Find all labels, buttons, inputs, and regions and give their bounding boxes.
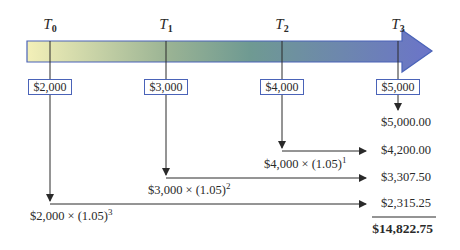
formula-t1: $3,000 × (1.05)2 (148, 181, 230, 198)
future-value-t1: $3,307.50 (351, 170, 431, 185)
cash-flow-box-t3: $5,000 (376, 79, 420, 95)
timeline-arrow (27, 30, 432, 72)
cash-flow-box-t1: $3,000 (144, 79, 188, 95)
time-label-t2: T2 (275, 16, 288, 34)
formula-t0: $2,000 × (1.05)3 (30, 207, 112, 224)
future-value-t3: $5,000.00 (351, 115, 431, 130)
time-label-t0: T0 (43, 16, 56, 34)
cash-flow-box-t2: $4,000 (260, 79, 304, 95)
time-label-t1: T1 (159, 16, 172, 34)
cash-flow-box-t0: $2,000 (28, 79, 72, 95)
formula-t2: $4,000 × (1.05)1 (264, 155, 346, 172)
time-label-t3: T3 (391, 16, 404, 34)
total-future-value: $14,822.75 (353, 221, 433, 237)
future-value-t0: $2,315.25 (351, 196, 431, 211)
future-value-t2: $4,200.00 (351, 143, 431, 158)
